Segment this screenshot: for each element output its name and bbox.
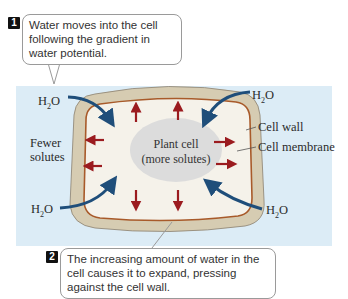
- callout-2: 2 The increasing amount of water in the …: [60, 248, 276, 299]
- plant-cell-label: Plant cell (more solutes): [136, 137, 216, 167]
- callout-1: 1 Water moves into the cell following th…: [22, 14, 182, 65]
- h2o-label-bottom-right: H2O: [266, 203, 288, 220]
- plant-cell-label-line2: (more solutes): [136, 152, 216, 167]
- callout-2-text: The increasing amount of water in the ce…: [67, 253, 259, 293]
- callout-1-pointer: [48, 63, 60, 84]
- callout-1-text: Water moves into the cell following the …: [29, 19, 158, 59]
- cell-membrane-label: Cell membrane: [258, 140, 335, 155]
- cell-wall-label: Cell wall: [258, 120, 303, 135]
- callout-1-number-badge: 1: [8, 17, 20, 29]
- fewer-solutes-label-line1: Fewer: [30, 136, 61, 151]
- plant-cell-label-line1: Plant cell: [136, 137, 216, 152]
- h2o-label-top-left: H2O: [38, 94, 60, 111]
- h2o-label-top-right: H2O: [252, 88, 274, 105]
- callout-2-number-badge: 2: [46, 251, 58, 263]
- h2o-label-bottom-left: H2O: [31, 202, 53, 219]
- fewer-solutes-label-line2: solutes: [30, 150, 65, 165]
